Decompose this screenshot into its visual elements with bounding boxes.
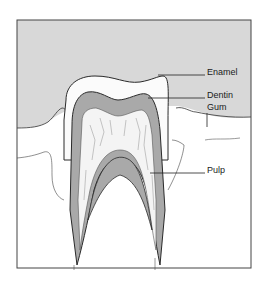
label-pulp: Pulp bbox=[207, 165, 225, 175]
label-enamel: Enamel bbox=[207, 67, 238, 77]
label-gum: Gum bbox=[207, 102, 227, 112]
pulp bbox=[78, 108, 156, 250]
tooth-diagram bbox=[0, 0, 263, 286]
label-dentin: Dentin bbox=[207, 90, 233, 100]
